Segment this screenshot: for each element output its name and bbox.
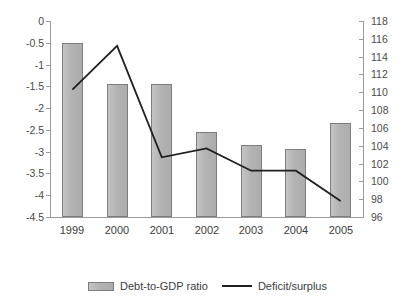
category-label: 2005 bbox=[319, 225, 363, 236]
category-label: 1999 bbox=[50, 225, 94, 236]
line-series-deficit-surplus bbox=[0, 0, 415, 298]
line-swatch-icon bbox=[222, 285, 252, 287]
chart-container: 0-0.5-1-1.5-2-2.5-3-3.5-4-4.5 1181161141… bbox=[0, 0, 415, 298]
bar-swatch-icon bbox=[88, 282, 114, 291]
legend-label: Debt-to-GDP ratio bbox=[120, 280, 208, 292]
category-label: 2004 bbox=[274, 225, 318, 236]
category-label: 2003 bbox=[229, 225, 273, 236]
category-label: 2002 bbox=[185, 225, 229, 236]
category-label: 2001 bbox=[140, 225, 184, 236]
category-label: 2000 bbox=[95, 225, 139, 236]
legend-item-debt-to-gdp-ratio: Debt-to-GDP ratio bbox=[88, 280, 208, 292]
chart-legend: Debt-to-GDP ratio Deficit/surplus bbox=[0, 280, 415, 292]
legend-label: Deficit/surplus bbox=[258, 280, 327, 292]
legend-item-deficit-surplus: Deficit/surplus bbox=[222, 280, 327, 292]
